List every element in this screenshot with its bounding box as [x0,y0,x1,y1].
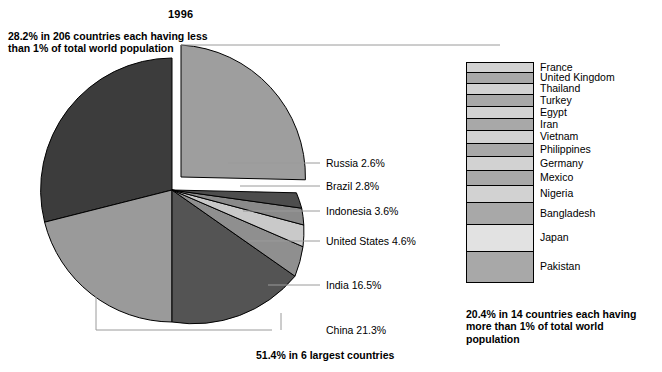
bar-segment [467,73,533,84]
bar-segment-label: Vietnam [540,130,615,143]
bar-segment-label: Nigeria [540,185,615,202]
annotation-big-countries: 20.4% in 14 countries each having more t… [466,308,656,345]
bar-segment-label: Mexico [540,170,615,185]
label-india: India 16.5% [326,279,381,291]
bar-segment-label: Bangladesh [540,202,615,224]
bar-segment [467,144,533,157]
bar-segment [467,225,533,252]
bar-segment [467,252,533,282]
label-indonesia: Indonesia 3.6% [326,205,398,217]
label-brazil: Brazil 2.8% [326,180,379,192]
bar-segment [467,203,533,225]
bar-segment-label: Iran [540,118,615,130]
bar-segment [467,131,533,144]
bar-segment [467,157,533,171]
breakdown-bar [466,62,534,283]
bar-segment [467,186,533,203]
label-russia: Russia 2.6% [326,157,385,169]
bar-segment-label: Egypt [540,106,615,118]
bar-segment-label: Germany [540,156,615,170]
annotation-six-largest: 51.4% in 6 largest countries [256,349,394,361]
bar-segment-label: Thailand [540,83,615,94]
bar-segment [467,84,533,95]
bar-segment-label: Pakistan [540,251,615,282]
chart-figure: 1996 28.2% in 206 countries each having … [0,0,662,372]
bar-segment [467,63,533,73]
bar-segment [467,119,533,131]
bar-segment-label: Japan [540,224,615,251]
label-china: China 21.3% [326,324,386,336]
bar-segment [467,171,533,186]
bar-segment-label: Philippines [540,143,615,156]
bar-segment [467,107,533,119]
breakdown-bar-labels: FranceUnited KingdomThailandTurkeyEgyptI… [540,62,615,282]
bar-segment [467,95,533,107]
slice-14-countries-exploded [181,45,305,180]
bar-segment-label: Turkey [540,94,615,106]
label-united-states: United States 4.6% [326,235,416,247]
